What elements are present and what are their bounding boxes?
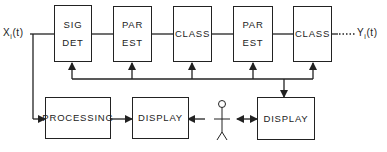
display-box-right: DISPLAY <box>257 97 315 140</box>
box-label: DET <box>62 34 83 52</box>
box-label: EST <box>243 34 264 52</box>
output-signal-label: Yi(t) <box>357 27 378 40</box>
box-label: PAR <box>122 16 143 34</box>
person-icon <box>214 101 230 141</box>
box-label: SIG <box>64 16 83 34</box>
box-label: CLASS <box>175 25 210 43</box>
input-signal-label: Xi(t) <box>3 27 24 40</box>
box-label: PROCESSING <box>42 109 113 127</box>
class-box-2: CLASS <box>293 6 332 62</box>
display-box-left: DISPLAY <box>132 97 189 139</box>
class-box-1: CLASS <box>173 6 212 62</box>
box-label: EST <box>122 34 143 52</box>
sig-det-box: SIG DET <box>54 5 92 62</box>
box-label: PAR <box>242 16 263 34</box>
box-label: DISPLAY <box>138 109 183 127</box>
box-label: CLASS <box>295 25 330 43</box>
box-label: DISPLAY <box>263 110 308 128</box>
par-est-box-2: PAR EST <box>233 6 273 62</box>
par-est-box-1: PAR EST <box>113 6 152 62</box>
processing-box: PROCESSING <box>45 97 111 139</box>
